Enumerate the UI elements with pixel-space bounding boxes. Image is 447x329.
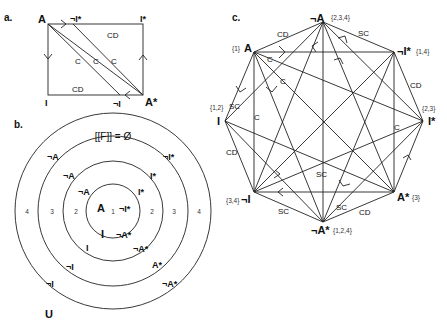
- edge-label: C: [394, 123, 400, 132]
- edge: [323, 22, 423, 121]
- edge-label-c1: C: [75, 57, 81, 66]
- vertex-Istar: I*: [428, 115, 436, 127]
- vertex-A-set: {1}: [232, 45, 241, 53]
- ring-number-3: 3: [172, 208, 176, 215]
- ring2-item: ¬A: [78, 187, 90, 197]
- panel-c-label: c.: [232, 12, 241, 23]
- edge-label: SC: [336, 203, 347, 212]
- ring-number-2: 2: [150, 208, 154, 215]
- ring2-item: I*: [138, 187, 145, 197]
- vertex-I-set: {1,2}: [210, 104, 224, 112]
- ring2-item: ¬A*: [133, 244, 149, 254]
- vertex-Istar-set: {2,3}: [422, 105, 436, 113]
- edge-label: SC: [278, 207, 289, 216]
- edge-label: CD: [410, 81, 422, 90]
- vertex-A: A: [244, 42, 252, 54]
- edge-label-c3: C: [111, 57, 117, 66]
- edge-label: SC: [316, 170, 327, 179]
- edge-label: CD: [359, 208, 371, 217]
- vertex-notA: ¬A: [310, 12, 324, 24]
- ring3-item: ¬I: [66, 262, 74, 272]
- vertex-I: I: [45, 98, 48, 108]
- edge-label-cd-top: CD: [107, 31, 119, 40]
- panel-a: a. A ¬I* I* I ¬I A* CD CD C C C: [4, 12, 158, 109]
- edge-label: C: [267, 55, 273, 64]
- edge-label: SC: [229, 102, 240, 111]
- ring1-item: A: [97, 202, 105, 214]
- panel-b: b. [[F]] = Ø U 1 2 2 3 3 4 4 A ¬I* I ¬A*…: [14, 113, 211, 320]
- edge-label-cd-bottom: CD: [72, 85, 84, 94]
- edge-label: C: [280, 77, 286, 86]
- vertex-notIstar: ¬I*: [70, 14, 82, 24]
- edge: [254, 52, 423, 121]
- arrow-icon: [312, 42, 318, 52]
- ring4-item: ¬I: [46, 279, 54, 289]
- ring1-item: ¬A*: [116, 230, 132, 240]
- vertex-Istar: I*: [140, 14, 147, 24]
- empty-set-label: [[F]] = Ø: [95, 131, 132, 142]
- vertex-Astar: A*: [145, 96, 158, 108]
- ring1-item: ¬I*: [119, 204, 131, 214]
- ring3-item: I*: [150, 171, 157, 181]
- vertex-notAstar: ¬A*: [311, 224, 330, 236]
- edge-label-c2: C: [93, 57, 99, 66]
- vertex-notIstar-set: {1,4}: [416, 48, 430, 56]
- vertex-notI-set: {3,4}: [226, 197, 240, 205]
- ring3-item: ¬A: [63, 171, 75, 181]
- ring-number-2: 2: [74, 208, 78, 215]
- arrow-icon: [334, 58, 343, 64]
- vertex-Astar-set: {3}: [412, 194, 421, 202]
- ring2-item: I: [86, 243, 89, 253]
- arrow-icon: [338, 36, 347, 43]
- ring-number-1: 1: [111, 208, 115, 215]
- panel-c: c. ¬A {2,3,4} A {1}: [210, 12, 436, 236]
- panel-a-label: a.: [4, 12, 13, 23]
- vertex-A: A: [38, 13, 46, 25]
- ring-number-4: 4: [25, 208, 29, 215]
- vertex-notI: ¬I: [113, 99, 121, 109]
- edge-label: C: [254, 113, 260, 122]
- vertex-notI: ¬I: [241, 193, 250, 205]
- vertex-notA-set: {2,3,4}: [331, 14, 351, 22]
- ring4-item: ¬A: [47, 152, 59, 162]
- vertex-Astar: A*: [397, 191, 410, 203]
- ring4-item: ¬A*: [162, 279, 178, 289]
- edge-label: CD: [277, 30, 289, 39]
- ring3-item: A*: [152, 260, 162, 270]
- logic-diagram: a. A ¬I* I* I ¬I A* CD CD C C C b. [[F]]…: [0, 0, 447, 329]
- ring1-item: I: [101, 228, 104, 240]
- ring-number-4: 4: [197, 208, 201, 215]
- universe-label: U: [45, 308, 53, 320]
- ring4-item: ¬I*: [163, 152, 175, 162]
- vertex-notIstar: ¬I*: [397, 45, 411, 57]
- vertex-notAstar-set: {1,2,4}: [333, 227, 353, 235]
- edge-label: SC: [358, 29, 369, 38]
- ring-number-3: 3: [50, 208, 54, 215]
- arrow-icon: [266, 86, 277, 92]
- vertex-I: I: [217, 115, 220, 127]
- panel-b-label: b.: [14, 119, 23, 130]
- edge-label: CD: [226, 148, 238, 157]
